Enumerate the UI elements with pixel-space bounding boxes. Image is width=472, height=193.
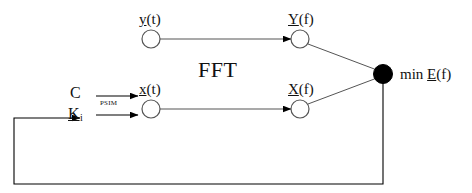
node-label-Y-f: Y(f) <box>288 12 314 27</box>
node-label-x-t: x(t) <box>139 82 161 97</box>
fft-label: FFT <box>198 59 237 81</box>
input-k-symbol: K <box>68 105 80 122</box>
node-label-X-f-arg: (f) <box>299 81 314 97</box>
node-label-Y-f-arg: (f) <box>299 11 314 27</box>
node-X-f <box>291 100 309 118</box>
node-Y-f <box>291 30 309 48</box>
node-y-t <box>142 30 160 48</box>
edge-Xf-to-mine <box>308 78 377 104</box>
node-label-y-t-arg: (t) <box>147 11 161 27</box>
input-label-k-i: Ki <box>68 106 83 123</box>
node-label-x-t-arg: (t) <box>147 81 161 97</box>
node-label-Y-f-symbol: Y <box>288 11 299 27</box>
node-label-y-t: y(t) <box>139 12 161 27</box>
objective-arg: (f) <box>436 66 451 82</box>
node-label-y-t-symbol: y <box>139 11 147 27</box>
diagram-canvas: y(t) Y(f) x(t) X(f) FFT min E(f) C Ki PS… <box>0 0 472 193</box>
edge-Yf-to-mine <box>308 44 377 70</box>
input-c-symbol: C <box>70 84 81 101</box>
min-keyword: min <box>400 66 423 82</box>
min-objective-label: min E(f) <box>400 67 451 82</box>
node-x-t <box>142 100 160 118</box>
node-label-X-f: X(f) <box>288 82 314 97</box>
psim-label: PSIM <box>100 100 117 107</box>
node-min-e <box>374 65 393 84</box>
node-label-X-f-symbol: X <box>288 81 299 97</box>
node-label-x-t-symbol: x <box>139 81 147 97</box>
input-label-c: C <box>70 85 81 101</box>
input-k-subscript: i <box>80 112 83 123</box>
objective-symbol: E <box>427 66 436 82</box>
